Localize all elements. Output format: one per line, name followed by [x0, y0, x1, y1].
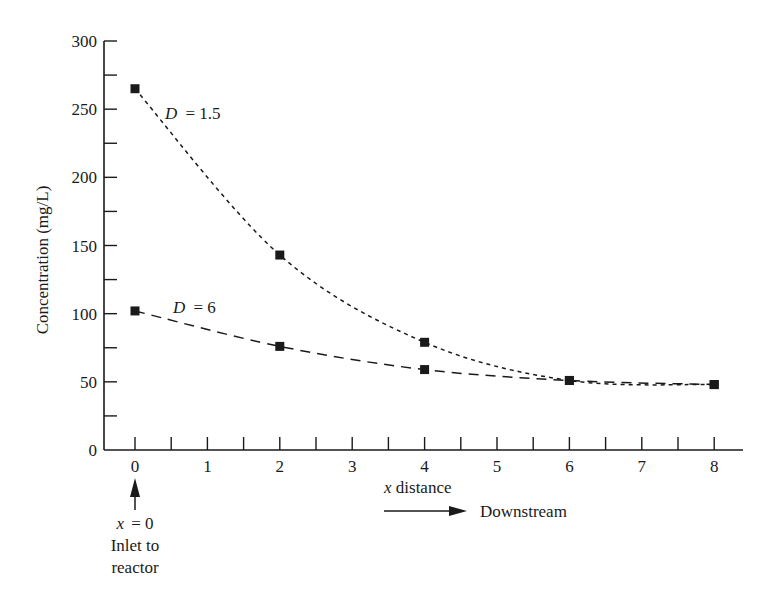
series-label-d6-var: D [172, 298, 186, 317]
y-tick-label: 250 [72, 100, 98, 119]
y-tick-label: 200 [72, 168, 98, 187]
y-tick-label: 100 [72, 305, 98, 324]
inlet-annotation: x = 0 Inlet to reactor [111, 478, 160, 577]
series-label-d1.5-var: D [164, 104, 178, 123]
y-tick-label: 300 [72, 32, 98, 51]
x-tick-label: 8 [710, 457, 719, 476]
x-tick-label: 3 [348, 457, 357, 476]
x-tick-label: 0 [131, 457, 140, 476]
data-point [420, 338, 429, 347]
series-label-d1.5-value: = 1.5 [186, 104, 221, 123]
x-tick-label: 2 [276, 457, 285, 476]
x-tick-label: 7 [638, 457, 647, 476]
inlet-equation-rest: = 0 [131, 514, 153, 533]
x-axis-annotation: x distance Downstream [383, 478, 567, 521]
y-axis-label: Concentration (mg/L) [33, 186, 52, 335]
data-point [420, 365, 429, 374]
concentration-chart: 050100150200250300012345678 Concentratio… [0, 0, 777, 600]
data-point [565, 376, 574, 385]
inlet-equation: x = 0 [115, 514, 153, 533]
axes: 050100150200250300012345678 [72, 32, 744, 476]
series-label-d6-value: = 6 [194, 298, 216, 317]
x-tick-label: 1 [203, 457, 212, 476]
x-axis-label-rest: distance [392, 478, 452, 497]
data-point [131, 84, 140, 93]
data-point [275, 251, 284, 260]
inlet-label-line1: Inlet to [111, 536, 160, 555]
inlet-equation-var: x [115, 514, 124, 533]
inlet-label-line2: reactor [111, 558, 159, 577]
data-point [275, 342, 284, 351]
downstream-arrow-head [449, 506, 467, 516]
x-tick-label: 4 [420, 457, 429, 476]
y-tick-label: 0 [89, 441, 98, 460]
y-tick-label: 50 [80, 373, 97, 392]
inlet-arrow-head [130, 478, 140, 497]
series-label-d1.5: D = 1.5 [164, 104, 221, 123]
downstream-label: Downstream [480, 502, 567, 521]
x-tick-label: 5 [493, 457, 502, 476]
x-axis-label: x distance [383, 478, 452, 497]
markers [131, 84, 719, 389]
data-point [131, 306, 140, 315]
data-point [710, 380, 719, 389]
series-label-d6: D = 6 [172, 298, 216, 317]
x-tick-label: 6 [565, 457, 574, 476]
y-tick-label: 150 [72, 237, 98, 256]
